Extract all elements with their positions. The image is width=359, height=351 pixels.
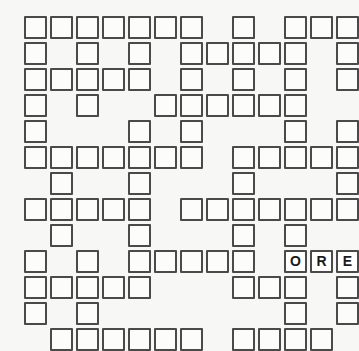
crossword-cell[interactable]	[50, 328, 73, 351]
crossword-cell[interactable]: R	[310, 250, 333, 273]
crossword-cell[interactable]	[128, 120, 151, 143]
crossword-cell[interactable]	[128, 172, 151, 195]
crossword-cell[interactable]	[310, 328, 333, 351]
crossword-cell[interactable]	[76, 302, 99, 325]
crossword-cell[interactable]	[154, 146, 177, 169]
crossword-cell[interactable]	[232, 68, 255, 91]
crossword-cell[interactable]	[258, 42, 281, 65]
crossword-cell[interactable]	[154, 16, 177, 39]
crossword-cell[interactable]	[102, 16, 125, 39]
crossword-cell[interactable]	[102, 276, 125, 299]
crossword-cell[interactable]	[24, 276, 47, 299]
crossword-cell[interactable]	[128, 250, 151, 273]
crossword-cell[interactable]	[258, 276, 281, 299]
crossword-cell[interactable]	[232, 94, 255, 117]
crossword-cell[interactable]	[284, 42, 307, 65]
crossword-cell[interactable]	[76, 250, 99, 273]
crossword-cell[interactable]	[206, 198, 229, 221]
crossword-cell[interactable]	[102, 68, 125, 91]
crossword-cell[interactable]	[24, 250, 47, 273]
crossword-cell[interactable]	[76, 198, 99, 221]
crossword-cell[interactable]	[180, 250, 203, 273]
crossword-cell[interactable]	[50, 16, 73, 39]
crossword-cell[interactable]	[336, 120, 359, 143]
crossword-cell[interactable]	[24, 146, 47, 169]
crossword-cell[interactable]	[76, 42, 99, 65]
crossword-cell[interactable]	[284, 224, 307, 247]
crossword-cell[interactable]	[128, 42, 151, 65]
crossword-cell[interactable]	[232, 198, 255, 221]
crossword-cell[interactable]	[232, 250, 255, 273]
crossword-cell[interactable]	[232, 16, 255, 39]
crossword-cell[interactable]	[50, 68, 73, 91]
crossword-cell[interactable]	[180, 328, 203, 351]
crossword-cell[interactable]	[24, 302, 47, 325]
crossword-cell[interactable]	[284, 198, 307, 221]
crossword-cell[interactable]	[258, 146, 281, 169]
crossword-cell[interactable]	[50, 224, 73, 247]
crossword-cell[interactable]	[180, 120, 203, 143]
crossword-cell[interactable]	[284, 302, 307, 325]
crossword-cell[interactable]: E	[336, 250, 359, 273]
crossword-cell[interactable]	[128, 224, 151, 247]
crossword-cell[interactable]	[128, 198, 151, 221]
crossword-cell[interactable]	[258, 198, 281, 221]
crossword-cell[interactable]	[50, 276, 73, 299]
crossword-cell[interactable]	[336, 276, 359, 299]
crossword-cell[interactable]	[180, 68, 203, 91]
crossword-cell[interactable]	[232, 276, 255, 299]
crossword-cell[interactable]	[180, 94, 203, 117]
crossword-cell[interactable]	[128, 328, 151, 351]
crossword-cell[interactable]	[310, 146, 333, 169]
crossword-cell[interactable]	[336, 302, 359, 325]
crossword-cell[interactable]	[76, 94, 99, 117]
crossword-cell[interactable]	[206, 250, 229, 273]
crossword-cell[interactable]	[284, 16, 307, 39]
crossword-cell[interactable]	[232, 172, 255, 195]
crossword-cell[interactable]: O	[284, 250, 307, 273]
crossword-cell[interactable]	[24, 198, 47, 221]
crossword-cell[interactable]	[24, 42, 47, 65]
crossword-cell[interactable]	[128, 276, 151, 299]
crossword-cell[interactable]	[128, 146, 151, 169]
crossword-cell[interactable]	[258, 94, 281, 117]
crossword-cell[interactable]	[206, 42, 229, 65]
crossword-cell[interactable]	[310, 198, 333, 221]
crossword-cell[interactable]	[76, 68, 99, 91]
crossword-cell[interactable]	[76, 146, 99, 169]
crossword-cell[interactable]	[284, 120, 307, 143]
crossword-cell[interactable]	[206, 94, 229, 117]
crossword-cell[interactable]	[284, 68, 307, 91]
crossword-cell[interactable]	[232, 42, 255, 65]
crossword-cell[interactable]	[24, 68, 47, 91]
crossword-cell[interactable]	[50, 198, 73, 221]
crossword-cell[interactable]	[232, 146, 255, 169]
crossword-cell[interactable]	[284, 94, 307, 117]
crossword-cell[interactable]	[336, 172, 359, 195]
crossword-cell[interactable]	[102, 328, 125, 351]
crossword-cell[interactable]	[154, 328, 177, 351]
crossword-cell[interactable]	[102, 146, 125, 169]
crossword-cell[interactable]	[102, 198, 125, 221]
crossword-cell[interactable]	[284, 276, 307, 299]
crossword-cell[interactable]	[50, 172, 73, 195]
crossword-cell[interactable]	[284, 146, 307, 169]
crossword-cell[interactable]	[24, 120, 47, 143]
crossword-cell[interactable]	[50, 146, 73, 169]
crossword-cell[interactable]	[336, 16, 359, 39]
crossword-cell[interactable]	[310, 16, 333, 39]
crossword-cell[interactable]	[76, 276, 99, 299]
crossword-cell[interactable]	[76, 16, 99, 39]
crossword-cell[interactable]	[336, 68, 359, 91]
crossword-cell[interactable]	[336, 198, 359, 221]
crossword-cell[interactable]	[232, 328, 255, 351]
crossword-cell[interactable]	[336, 42, 359, 65]
crossword-cell[interactable]	[154, 94, 177, 117]
crossword-cell[interactable]	[24, 94, 47, 117]
crossword-cell[interactable]	[180, 16, 203, 39]
crossword-cell[interactable]	[76, 328, 99, 351]
crossword-cell[interactable]	[336, 146, 359, 169]
crossword-cell[interactable]	[128, 16, 151, 39]
